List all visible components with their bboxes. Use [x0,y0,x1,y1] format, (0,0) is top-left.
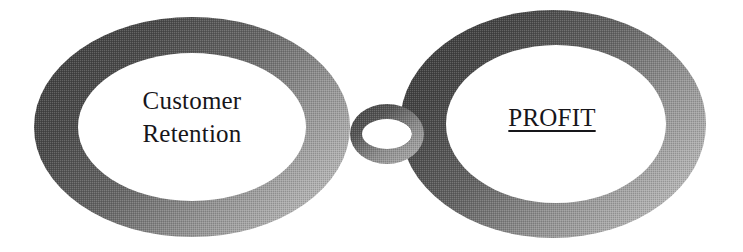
node-label-customer-retention-line1: Customer [94,84,290,117]
node-label-customer-retention: Customer Retention [94,84,290,150]
connector-link-ring[interactable] [348,102,428,168]
node-label-customer-retention-line2: Retention [94,117,290,150]
node-label-profit-text: PROFIT [508,104,595,131]
node-label-profit: PROFIT [452,101,652,134]
connector-link-ring-band [348,102,428,168]
diagram-canvas: Customer Retention PROFIT [0,0,743,252]
